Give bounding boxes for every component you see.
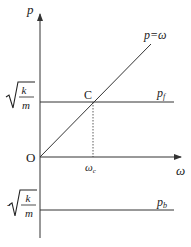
upper-line-label: pf <box>156 86 167 101</box>
lower-value-label: - k m <box>7 190 37 219</box>
line-p-equals-omega <box>40 44 151 157</box>
upper-value-label: k m <box>6 82 35 111</box>
phase-diagram: p ω O p=ω C pf pb ωc k m - k m <box>0 0 191 247</box>
y-axis-label: p <box>26 2 34 17</box>
origin-label: O <box>26 150 35 165</box>
x-tick-label: ωc <box>85 161 97 175</box>
x-axis-label: ω <box>176 163 185 178</box>
svg-text:k: k <box>26 192 32 204</box>
intersection-label: C <box>84 88 92 102</box>
svg-text:m: m <box>25 207 33 219</box>
svg-text:k: k <box>22 84 28 96</box>
diagonal-line-label: p=ω <box>143 28 167 42</box>
svg-text:m: m <box>22 99 30 111</box>
lower-line-label: pb <box>156 195 167 210</box>
